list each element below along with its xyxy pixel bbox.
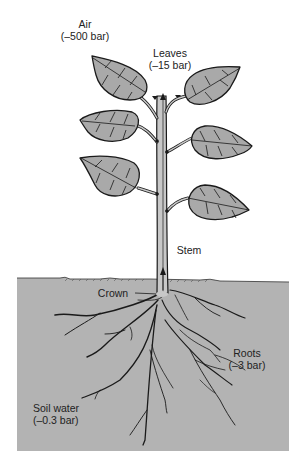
plant-water-potential-diagram: Air (–500 bar) Leaves (–15 bar) Stem Cro… [0,0,303,465]
leaf [192,126,252,159]
label-soil-water-name: Soil water [33,402,87,414]
label-roots: Roots (–3 bar) [226,347,268,371]
label-soil-water-value: (–0.3 bar) [33,414,87,426]
label-roots-name: Roots [226,347,268,359]
crown [156,291,168,297]
leaf [185,67,240,105]
label-crown: Crown [93,287,133,299]
label-stem-name: Stem [174,244,204,256]
label-leaves-value: (–15 bar) [145,59,195,71]
leaf [80,110,138,141]
label-leaves-name: Leaves [145,47,195,59]
leaf [188,185,249,220]
label-air-name: Air [60,18,110,30]
label-crown-name: Crown [93,287,133,299]
label-soil-water: Soil water (–0.3 bar) [33,402,87,426]
leaf [92,56,147,100]
leaf [80,156,139,196]
label-leaves: Leaves (–15 bar) [145,47,195,71]
label-air-value: (–500 bar) [60,30,110,42]
label-air: Air (–500 bar) [60,18,110,42]
label-stem: Stem [174,244,204,256]
label-roots-value: (–3 bar) [226,359,268,371]
